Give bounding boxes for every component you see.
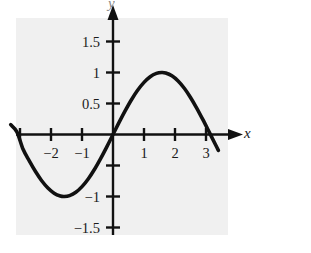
y-tick-label--1: −1 — [57, 189, 100, 204]
x-axis-label: x — [244, 126, 251, 141]
x-tick-label--2: −2 — [43, 146, 58, 161]
y-axis-label: y — [108, 0, 115, 11]
figure-root: −2 −1 1 2 3 1.5 1 0.5 −1 −1.5 y x — [0, 0, 311, 253]
y-tick-label-0.5: 0.5 — [60, 96, 100, 111]
y-tick-label-1: 1 — [60, 65, 100, 80]
x-tick-label-2: 2 — [171, 146, 178, 161]
x-tick-label-1: 1 — [140, 146, 147, 161]
x-tick-label-3: 3 — [202, 146, 209, 161]
x-axis-arrowhead — [228, 129, 243, 140]
y-tick-label-1.5: 1.5 — [60, 34, 100, 49]
plot-canvas — [0, 0, 311, 253]
y-tick-label--1.5: −1.5 — [57, 220, 100, 235]
x-tick-label--1: −1 — [74, 146, 89, 161]
